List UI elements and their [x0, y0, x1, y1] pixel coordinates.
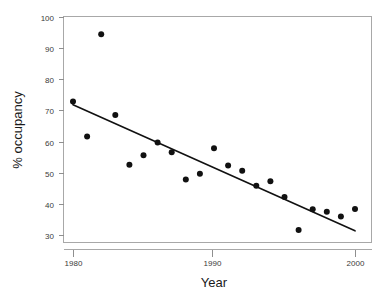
data-point [296, 227, 302, 233]
data-point [197, 171, 203, 177]
x-tick-label-1990: 1990 [204, 259, 222, 268]
y-tick-label-80: 80 [45, 76, 54, 85]
data-point [84, 133, 90, 139]
y-tick-label-90: 90 [45, 45, 54, 54]
data-point [352, 206, 358, 212]
y-tick-label-100: 100 [41, 14, 55, 23]
data-point [211, 145, 217, 151]
data-point [310, 206, 316, 212]
data-point [282, 194, 288, 200]
y-tick-label-40: 40 [45, 201, 54, 210]
data-point [169, 149, 175, 155]
data-point [338, 214, 344, 220]
x-tick-label-2000: 2000 [347, 259, 365, 268]
data-point [324, 209, 330, 215]
data-point [126, 162, 132, 168]
plot-background [0, 0, 385, 292]
y-tick-label-70: 70 [45, 107, 54, 116]
data-point [267, 178, 273, 184]
data-point [70, 99, 76, 105]
x-tick-label-1980: 1980 [65, 259, 83, 268]
data-point [141, 152, 147, 158]
chart-figure: 100 90 80 70 60 50 40 30 1980 1990 2000 … [0, 0, 385, 292]
data-point [225, 162, 231, 168]
y-axis-title: % occupancy [10, 91, 25, 169]
data-point [239, 168, 245, 174]
y-tick-label-30: 30 [45, 232, 54, 241]
y-tick-label-50: 50 [45, 170, 54, 179]
data-point [155, 139, 161, 145]
data-point [253, 183, 259, 189]
scatter-plot-svg: 100 90 80 70 60 50 40 30 1980 1990 2000 … [0, 0, 385, 292]
data-point [112, 112, 118, 118]
x-axis-title: Year [201, 275, 228, 290]
data-point [183, 176, 189, 182]
data-point [98, 31, 104, 37]
y-tick-label-60: 60 [45, 139, 54, 148]
